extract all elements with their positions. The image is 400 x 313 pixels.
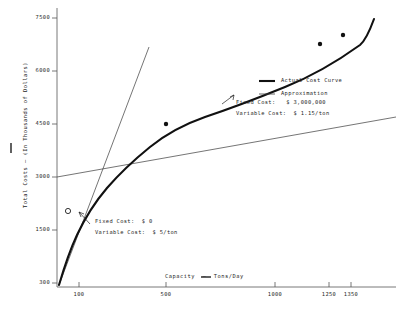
y-tick-label-300: 300 — [24, 280, 50, 286]
approximation-line-steep — [59, 47, 149, 285]
x-tick-label-500: 500 — [152, 292, 180, 298]
x-axis-ticks — [79, 282, 351, 287]
y-axis-title-wrapper: Total Costs — (In Thousands of Dollars) — [12, 55, 26, 215]
approximation-line-shallow — [57, 117, 396, 177]
actual-cost-curve — [59, 19, 374, 285]
cost-capacity-chart: 7500 6000 4500 3000 1500 300 100 500 100… — [0, 0, 400, 313]
x-tick-label-1350: 1350 — [337, 292, 365, 298]
y-axis-ticks — [52, 18, 57, 283]
open-circle-marker — [65, 208, 70, 213]
legend-label-actual-cost-curve: Actual Cost Curve — [281, 78, 342, 84]
y-tick-label-1500: 1500 — [24, 227, 50, 233]
data-marker-500 — [164, 122, 168, 126]
y-tick-label-7500: 7500 — [24, 15, 50, 21]
upper-annotation-fixed-cost: Fixed Cost: $ 3,000,000 — [236, 100, 326, 106]
data-marker-1250 — [318, 42, 322, 46]
upper-annotation-variable-cost: Variable Cost: $ 1.15/ton — [236, 111, 329, 117]
x-tick-label-100: 100 — [65, 292, 93, 298]
upper-annotation-leader — [222, 95, 234, 104]
x-tick-label-1000: 1000 — [261, 292, 289, 298]
x-axis-title: Capacity — Tons/Day — [165, 274, 244, 280]
plot-area — [0, 0, 400, 313]
data-marker-1350 — [341, 33, 345, 37]
lower-annotation-fixed-cost: Fixed Cost: $ 0 — [95, 219, 153, 225]
lower-annotation-variable-cost: Variable Cost: $ 5/ton — [95, 230, 178, 236]
legend-label-approximation: Approximation — [281, 91, 328, 97]
y-axis-title: Total Costs — (In Thousands of Dollars) — [22, 62, 28, 208]
